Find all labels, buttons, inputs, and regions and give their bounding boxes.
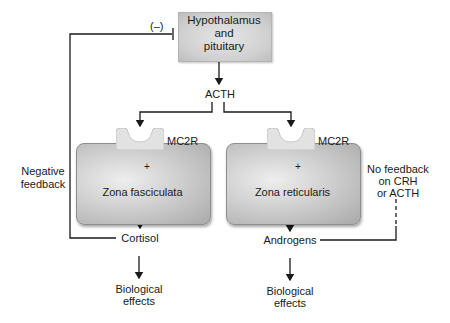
- mc2r-label-right: MC2R: [318, 135, 349, 147]
- zona-reticularis-box: [226, 143, 361, 225]
- cortisol-label: Cortisol: [110, 232, 170, 244]
- mc2r-receptor-icon: [116, 128, 164, 150]
- no-feedback-label-3: or ACTH: [366, 187, 430, 199]
- biological-effects-left: Biological: [109, 283, 169, 295]
- mc2r-receptor-icon: [267, 128, 315, 150]
- biological-effects-right-2: effects: [260, 297, 320, 309]
- acth-label: ACTH: [198, 88, 242, 100]
- plus-sign-right: +: [295, 161, 301, 173]
- zona-reticularis-label: Zona reticularis: [226, 186, 359, 198]
- zona-fasciculata-label: Zona fasciculata: [76, 186, 209, 198]
- plus-sign-left: +: [144, 161, 150, 173]
- biological-effects-right: Biological: [260, 285, 320, 297]
- androgens-label: Androgens: [260, 234, 320, 246]
- mc2r-label-left: MC2R: [167, 135, 198, 147]
- hypothalamus-label: Hypothalamus: [178, 14, 270, 26]
- no-feedback-label-2: on CRH: [366, 175, 430, 187]
- negative-feedback-label-2: feedback: [18, 178, 68, 190]
- zona-fasciculata-box: [76, 143, 211, 225]
- negative-feedback-label: Negative: [18, 165, 68, 177]
- hypothalamus-label-and: and: [178, 27, 270, 39]
- pituitary-label: pituitary: [178, 40, 270, 52]
- inhibition-sign: (–): [150, 20, 163, 32]
- no-feedback-label: No feedback: [366, 163, 430, 175]
- biological-effects-left-2: effects: [109, 295, 169, 307]
